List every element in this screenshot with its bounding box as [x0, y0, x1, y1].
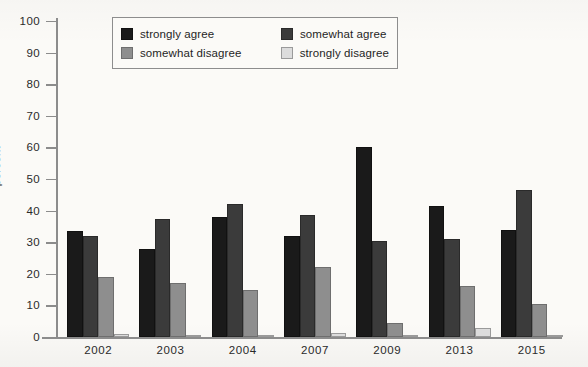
bar [387, 323, 403, 337]
bar [227, 204, 243, 337]
legend-row: strongly agree somewhat agree [121, 24, 389, 43]
bar [300, 215, 316, 337]
bar [139, 249, 155, 337]
legend-row: somewhat disagree strongly disagree [121, 43, 389, 62]
bar-group [429, 21, 491, 337]
bar [403, 335, 419, 337]
legend-entry-strongly-agree: strongly agree [121, 28, 281, 40]
legend-entry-strongly-disagree: strongly disagree [281, 47, 389, 59]
x-tick-label: 2015 [507, 344, 557, 356]
legend-entry-somewhat-agree: somewhat agree [281, 28, 386, 40]
y-tick-mark [46, 21, 56, 22]
legend-label: somewhat disagree [140, 47, 241, 59]
bar [98, 277, 114, 337]
bar-group [501, 21, 563, 337]
bar [284, 236, 300, 337]
legend-swatch-icon [281, 28, 293, 40]
y-tick-mark [46, 305, 56, 306]
y-tick-mark [46, 84, 56, 85]
bar [475, 328, 491, 337]
y-tick-label: 20 [4, 268, 40, 280]
y-tick-mark [46, 53, 56, 54]
bar [516, 190, 532, 337]
bar [315, 267, 331, 337]
x-tick-label: 2007 [290, 344, 340, 356]
bar [356, 147, 372, 337]
y-tick-label: 70 [4, 110, 40, 122]
bar [67, 231, 83, 337]
bar [155, 219, 171, 338]
bar [331, 333, 347, 337]
y-tick-label: 60 [4, 141, 40, 153]
bar [186, 335, 202, 337]
y-tick-label: 0 [4, 331, 40, 343]
y-tick-mark [46, 116, 56, 117]
legend-label: strongly agree [140, 28, 214, 40]
bar [243, 290, 259, 337]
bar [114, 334, 130, 337]
y-tick-mark [46, 179, 56, 180]
y-axis-title: percent [0, 146, 2, 186]
legend-swatch-icon [121, 47, 133, 59]
bar [83, 236, 99, 337]
legend: strongly agree somewhat agree somewhat d… [112, 17, 398, 69]
bar [170, 283, 186, 337]
bar [372, 241, 388, 337]
y-tick-mark [46, 242, 56, 243]
y-tick-label: 100 [4, 15, 40, 27]
y-tick-label: 80 [4, 78, 40, 90]
x-tick-label: 2003 [145, 344, 195, 356]
y-tick-label: 50 [4, 173, 40, 185]
x-axis-line [42, 337, 562, 339]
y-tick-label: 10 [4, 299, 40, 311]
bar [547, 335, 563, 337]
legend-swatch-icon [121, 28, 133, 40]
x-tick-label: 2013 [435, 344, 485, 356]
legend-entry-somewhat-disagree: somewhat disagree [121, 47, 281, 59]
chart-figure: percent 1009080706050403020100 200220032… [0, 0, 588, 367]
legend-label: somewhat agree [300, 28, 386, 40]
y-tick-label: 30 [4, 236, 40, 248]
y-tick-mark [46, 147, 56, 148]
x-tick-label: 2004 [218, 344, 268, 356]
y-tick-mark [46, 337, 56, 338]
bar [460, 286, 476, 337]
bar [444, 239, 460, 337]
bar [429, 206, 445, 337]
bar [501, 230, 517, 337]
bar [258, 335, 274, 337]
bar [212, 217, 228, 337]
x-tick-label: 2002 [73, 344, 123, 356]
y-tick-label: 90 [4, 47, 40, 59]
y-tick-mark [46, 274, 56, 275]
bar [532, 304, 548, 337]
legend-label: strongly disagree [300, 47, 389, 59]
x-tick-label: 2009 [362, 344, 412, 356]
legend-swatch-icon [281, 47, 293, 59]
y-tick-mark [46, 211, 56, 212]
y-tick-label: 40 [4, 205, 40, 217]
